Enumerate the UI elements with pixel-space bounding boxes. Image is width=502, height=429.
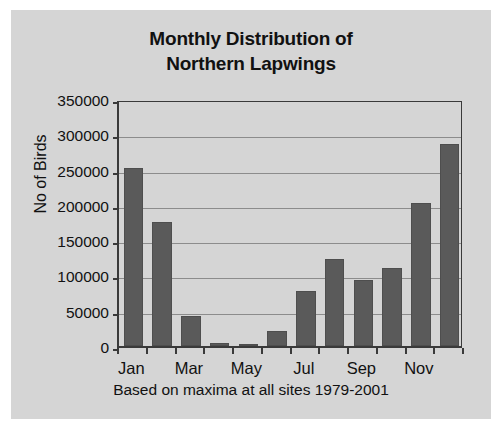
y-tick-label: 350000 xyxy=(5,93,109,109)
y-tick-label: 250000 xyxy=(5,164,109,180)
y-tick-label: 300000 xyxy=(5,128,109,144)
bar-mar xyxy=(181,316,201,346)
bar-aug xyxy=(325,259,345,346)
bar-may xyxy=(239,344,259,346)
chart-page: Monthly Distribution of Northern Lapwing… xyxy=(0,0,502,429)
x-tick-mark xyxy=(261,348,263,354)
bar-sep xyxy=(354,280,374,346)
x-tick-mark xyxy=(462,348,464,354)
x-tick-label-sep: Sep xyxy=(331,358,391,378)
x-tick-mark xyxy=(232,348,234,354)
x-axis-caption: Based on maxima at all sites 1979-2001 xyxy=(11,381,491,399)
bar-apr xyxy=(210,343,230,346)
x-axis-tick-labels: JanMarMayJulSepNov xyxy=(117,358,462,382)
x-tick-mark xyxy=(347,348,349,354)
x-tick-mark xyxy=(146,348,148,354)
x-tick-label-nov: Nov xyxy=(389,358,449,378)
bar-jun xyxy=(267,331,287,346)
chart-title-line-2: Northern Lapwings xyxy=(11,51,491,76)
x-tick-label-jan: Jan xyxy=(101,358,161,378)
x-tick-mark xyxy=(318,348,320,354)
x-tick-mark xyxy=(117,348,119,354)
y-tick-label: 100000 xyxy=(5,269,109,285)
y-tick-label: 50000 xyxy=(5,305,109,321)
bar-jul xyxy=(296,291,316,346)
y-tick-label: 150000 xyxy=(5,234,109,250)
x-tick-mark xyxy=(433,348,435,354)
x-tick-label-jul: Jul xyxy=(274,358,334,378)
bar-feb xyxy=(152,222,172,346)
x-tick-label-may: May xyxy=(216,358,276,378)
bar-series xyxy=(119,102,461,346)
x-tick-mark xyxy=(203,348,205,354)
chart-title-line-1: Monthly Distribution of xyxy=(11,26,491,51)
x-tick-mark xyxy=(376,348,378,354)
bar-oct xyxy=(382,268,402,346)
y-tick-label: 0 xyxy=(5,340,109,356)
x-tick-mark xyxy=(405,348,407,354)
x-tick-label-mar: Mar xyxy=(159,358,219,378)
chart-title: Monthly Distribution of Northern Lapwing… xyxy=(11,26,491,76)
plot-area xyxy=(117,101,462,348)
x-axis-ticks xyxy=(117,348,462,356)
bar-dec xyxy=(440,144,460,346)
bar-jan xyxy=(124,168,144,346)
y-tick-label: 200000 xyxy=(5,199,109,215)
x-tick-mark xyxy=(175,348,177,354)
chart-panel: Monthly Distribution of Northern Lapwing… xyxy=(11,10,491,419)
x-tick-mark xyxy=(290,348,292,354)
bar-nov xyxy=(411,203,431,346)
